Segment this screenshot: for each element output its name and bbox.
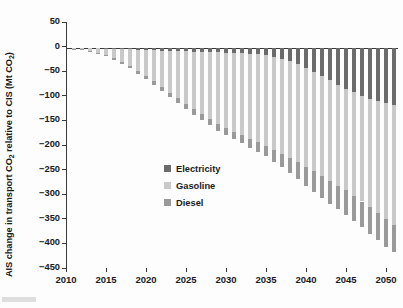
legend-swatch-gasoline [164,182,171,189]
bar-stack [368,48,373,268]
bar-stack [168,48,173,268]
legend-item-diesel: Diesel [164,194,220,211]
bar-segment-diesel [192,109,197,115]
bar-stack [216,48,221,268]
x-axis-tick-label: 2040 [286,274,326,285]
bar-segment-diesel [264,146,269,157]
bar-stack [112,48,117,268]
bar-segment-gasoline [272,57,277,150]
y-axis-title-sub-2: 2 [8,55,15,59]
y-axis-title-container: AIS change in transport CO2 relative to … [0,0,20,285]
bar-segment-diesel [240,135,245,143]
bar-segment-diesel [112,58,117,60]
plot-area: 500−50−100−150−200−250−300−350−400−450 2… [66,22,398,268]
x-axis-tick-label: 2050 [366,274,403,285]
x-axis-tick [66,268,67,272]
bar-stack [80,48,85,268]
x-axis-tick [306,268,307,272]
bar-stack [248,48,253,268]
bar-stack [392,48,397,268]
y-axis-tick-label: −100 [26,90,60,100]
bar-segment-diesel [352,196,357,221]
y-axis-title-sub-1: 2 [8,154,15,158]
bar-segment-gasoline [256,54,261,142]
bar-segment-diesel [80,49,85,50]
bar-segment-gasoline [240,53,245,135]
bar-stack [336,48,341,268]
bar-segment-diesel [120,62,125,64]
bar-segment-electricity [352,48,357,92]
bar-stack [376,48,381,268]
legend-item-electricity: Electricity [164,160,220,177]
bar-stack [88,48,93,268]
bar-stack [304,48,309,268]
bar-segment-diesel [336,186,341,210]
bar-segment-diesel [384,219,389,246]
bar-stack [352,48,357,268]
legend-item-gasoline: Gasoline [164,177,220,194]
bar-stack [144,48,149,268]
bar-segment-diesel [176,98,181,103]
y-axis-title-part-1: AIS change in transport CO [4,158,14,277]
bar-segment-electricity [296,48,301,64]
y-axis-tick-label: −250 [26,164,60,174]
bar-stack [296,48,301,268]
x-axis-tick-label: 2015 [86,274,126,285]
bar-segment-electricity [360,48,365,96]
bar-segment-diesel [184,104,189,109]
y-axis-tick-label: −300 [26,188,60,198]
bar-segment-electricity [288,48,293,61]
bar-segment-diesel [248,139,253,148]
bar-segment-diesel [216,124,221,131]
bar-segment-electricity [320,48,325,76]
legend-swatch-diesel [164,199,171,206]
x-axis-tick [266,268,267,272]
bar-stack [184,48,189,268]
bar-segment-gasoline [112,49,117,58]
x-axis-tick-label: 2045 [326,274,366,285]
y-axis-tick [62,243,66,244]
bar-segment-diesel [96,53,101,54]
bar-segment-gasoline [328,80,333,180]
bar-segment-electricity [344,48,349,89]
bar-stack [200,48,205,268]
bar-stack [104,48,109,268]
bar-segment-diesel [128,66,133,68]
bar-segment-gasoline [264,55,269,146]
bar-segment-diesel [208,119,213,125]
bar-segment-gasoline [312,72,317,171]
bar-stack [176,48,181,268]
bar-stack [264,48,269,268]
bar-segment-diesel [144,76,149,79]
bar-segment-gasoline [336,85,341,186]
y-axis-tick [62,22,66,23]
bar-segment-gasoline [376,101,381,213]
bar-segment-gasoline [224,53,229,128]
bar-segment-diesel [312,171,317,192]
y-axis-tick-label: −350 [26,213,60,223]
bar-segment-diesel [360,202,365,228]
bar-stack [320,48,325,268]
y-axis-tick [62,169,66,170]
x-axis-tick-label: 2035 [246,274,286,285]
y-axis-tick [62,218,66,219]
bar-segment-gasoline [120,49,125,62]
bar-stack [360,48,365,268]
x-axis-tick [346,268,347,272]
x-axis-tick-label: 2030 [206,274,246,285]
bar-segment-diesel [376,213,381,240]
bar-segment-electricity [312,48,317,72]
bar-segment-diesel [280,154,285,167]
x-axis-tick-label: 2020 [126,274,166,285]
bar-segment-diesel [272,150,277,162]
chart-legend: ElectricityGasolineDiesel [164,160,220,211]
bar-segment-gasoline [304,68,309,167]
bar-segment-gasoline [288,61,293,157]
bar-segment-gasoline [384,103,389,219]
bar-segment-gasoline [200,52,205,114]
bar-segment-diesel [392,225,397,252]
y-axis-tick [62,71,66,72]
y-axis-tick-label: 50 [26,16,60,26]
bar-stack [240,48,245,268]
bar-segment-diesel [232,132,237,140]
